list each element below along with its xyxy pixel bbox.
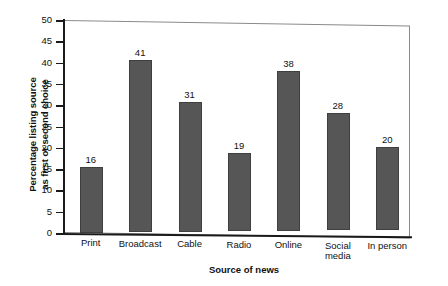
bar[interactable] xyxy=(277,71,300,231)
bar-slot: 19 xyxy=(215,20,263,233)
y-axis-tick-label: 20 xyxy=(28,143,52,153)
y-axis-tick-mark xyxy=(56,105,63,107)
x-axis-title: Source of news xyxy=(0,264,448,275)
y-axis-tick-label: 50 xyxy=(28,15,52,25)
y-axis-tick-label: 40 xyxy=(28,58,52,68)
y-axis-tick-mark xyxy=(56,190,63,192)
y-axis-tick-mark xyxy=(56,233,63,235)
y-axis-tick-mark xyxy=(56,63,63,65)
bar-slot: 28 xyxy=(314,20,362,233)
y-axis-tick-mark xyxy=(56,41,63,43)
y-axis-tick-label: 10 xyxy=(28,185,52,195)
bar-value-label: 20 xyxy=(363,135,411,145)
bar-slot: 16 xyxy=(67,20,115,233)
y-axis-tick-mark xyxy=(56,20,63,22)
bar-value-label: 16 xyxy=(67,155,115,165)
y-axis-tick-mark xyxy=(56,127,63,129)
y-axis-tick-mark xyxy=(56,148,63,150)
bar-value-label: 38 xyxy=(264,59,312,69)
y-axis-tick-label: 30 xyxy=(28,100,52,110)
bar-value-label: 41 xyxy=(116,48,164,58)
y-axis-tick-mark xyxy=(56,212,63,214)
bar-slot: 20 xyxy=(363,20,411,233)
bar[interactable] xyxy=(376,147,399,230)
x-axis-tick-label: In person xyxy=(354,241,420,252)
y-axis-tick-mark xyxy=(56,169,63,171)
y-axis-tick-label: 15 xyxy=(28,164,52,174)
bar-slot: 38 xyxy=(264,20,312,233)
bar-value-label: 19 xyxy=(215,141,263,151)
bar-chart: Percentage listing source as first or se… xyxy=(0,0,448,286)
bar-value-label: 31 xyxy=(166,90,214,100)
bar[interactable] xyxy=(327,113,350,230)
x-axis-tick-label-line: In person xyxy=(354,241,420,252)
y-axis-tick-label: 35 xyxy=(28,79,52,89)
y-axis-tick-mark xyxy=(56,84,63,86)
bar-slot: 31 xyxy=(166,20,214,233)
bar[interactable] xyxy=(179,102,202,232)
y-axis-tick-label: 45 xyxy=(28,36,52,46)
y-axis-tick-label: 25 xyxy=(28,122,52,132)
bar[interactable] xyxy=(129,60,152,232)
bars-layer: 16413119382820 xyxy=(64,20,410,233)
y-axis-tick-label: 5 xyxy=(28,207,52,217)
bar[interactable] xyxy=(80,167,103,233)
bar[interactable] xyxy=(228,153,251,232)
bar-slot: 41 xyxy=(116,20,164,233)
x-axis-tick-label-line: media xyxy=(305,251,371,262)
y-axis-tick-label: 0 xyxy=(28,228,52,238)
bar-value-label: 28 xyxy=(314,101,362,111)
